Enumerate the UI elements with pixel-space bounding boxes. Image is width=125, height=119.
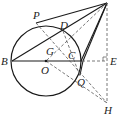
label-g: G (46, 45, 54, 57)
label-p: P (32, 9, 40, 21)
label-o: O (41, 64, 49, 76)
center-point-o (45, 60, 48, 63)
segment-ap (36, 3, 107, 23)
label-c: C (68, 49, 76, 61)
geometry-diagram: P D G C B O E Q H (0, 0, 125, 119)
dashed-ph (36, 23, 107, 103)
label-e: E (109, 55, 117, 67)
label-q: Q (77, 76, 85, 88)
right-angle-mark (103, 57, 107, 61)
label-d: D (59, 19, 68, 31)
label-h: H (103, 104, 113, 116)
segment-ac-2 (83, 3, 107, 61)
label-b: B (1, 55, 8, 67)
